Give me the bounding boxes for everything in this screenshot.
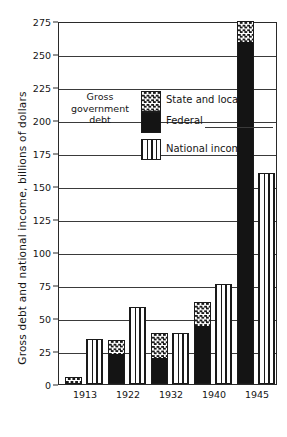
bar-group-1913 [65, 23, 105, 384]
bar-group-1945 [237, 23, 277, 384]
national-income-bar-1940[interactable] [215, 284, 232, 384]
state-local-segment [152, 334, 167, 358]
plot-area: Gross government debt State and local Fe… [58, 22, 277, 385]
legend-bracket-line1: Gross [87, 91, 114, 102]
legend-swatch-federal [141, 112, 161, 133]
x-tick-label-1945: 1945 [245, 389, 269, 400]
y-tick-label: 50 [39, 314, 51, 325]
bar-group-1922 [108, 23, 148, 384]
legend-swatch-state-local [141, 91, 161, 112]
federal-segment [109, 354, 124, 383]
legend-label-state-local: State and local [166, 94, 241, 105]
state-local-segment [195, 303, 210, 326]
legend-rule-federal [205, 127, 273, 128]
y-tick-label: 100 [33, 248, 51, 259]
x-axis-ticks: 1913 1922 1932 1940 1945 [58, 389, 277, 409]
legend-swatch-national-income [141, 139, 161, 160]
y-tick-label: 75 [39, 281, 51, 292]
debt-bar-1922[interactable] [108, 340, 125, 384]
bar-group-1940 [194, 23, 234, 384]
legend-label-national-income: National income [166, 143, 247, 154]
y-tick-label: 125 [33, 215, 51, 226]
legend-label-federal: Federal [166, 115, 203, 126]
y-tick-label: 150 [33, 182, 51, 193]
national-income-fill [259, 174, 274, 383]
national-income-fill [173, 334, 188, 384]
debt-bar-1945[interactable] [237, 21, 254, 384]
y-tick-label: 175 [33, 149, 51, 160]
y-tick-label: 225 [33, 83, 51, 94]
y-tick-label: 200 [33, 116, 51, 127]
national-income-fill [216, 285, 231, 383]
bar-group-1932 [151, 23, 191, 384]
state-local-segment [109, 341, 124, 354]
federal-segment [195, 326, 210, 383]
y-tick-label: 25 [39, 347, 51, 358]
x-tick-label-1932: 1932 [159, 389, 183, 400]
national-income-fill [87, 340, 102, 383]
national-income-bar-1913[interactable] [86, 339, 103, 384]
national-income-fill [130, 308, 145, 383]
legend-bracket-label: Gross government debt [63, 91, 137, 126]
x-tick-label-1922: 1922 [116, 389, 140, 400]
legend: Gross government debt State and local Fe… [63, 89, 243, 157]
national-income-bar-1932[interactable] [172, 333, 189, 385]
legend-bracket-line2: government [71, 103, 129, 114]
state-local-segment [238, 22, 253, 42]
legend-bracket-line3: debt [89, 114, 111, 125]
chart-figure: Gross debt and national income, billions… [0, 0, 287, 437]
y-axis-ticks: 275 250 225 200 175 150 125 100 75 50 25… [0, 22, 58, 385]
y-tick-label: 250 [33, 50, 51, 61]
debt-bar-1913[interactable] [65, 377, 82, 384]
state-local-segment [66, 378, 81, 383]
national-income-bar-1945[interactable] [258, 173, 275, 384]
debt-bar-1940[interactable] [194, 302, 211, 384]
x-tick-label-1940: 1940 [202, 389, 226, 400]
national-income-bar-1922[interactable] [129, 307, 146, 384]
x-tick-label-1913: 1913 [73, 389, 97, 400]
federal-segment [152, 358, 167, 383]
debt-bar-1932[interactable] [151, 333, 168, 385]
y-tick-label: 0 [45, 380, 51, 391]
y-tick-label: 275 [33, 17, 51, 28]
